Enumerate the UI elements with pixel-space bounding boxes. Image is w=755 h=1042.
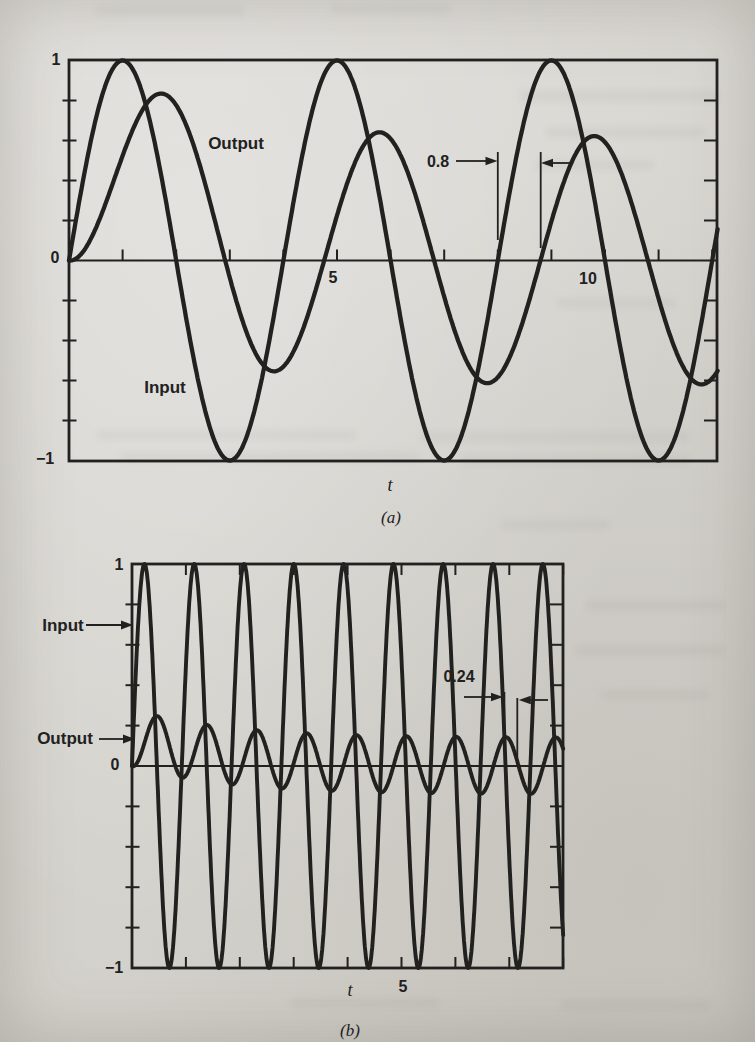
plot-a-generated bbox=[63, 60, 718, 461]
delay-value-b: 0.24 bbox=[443, 668, 474, 685]
y-axis-label-minus-one-a: −1 bbox=[36, 450, 54, 467]
x-tick-label-10-a: 10 bbox=[579, 270, 597, 287]
delay-annotation-a: 0.8 bbox=[427, 152, 573, 248]
x-axis-title-b: t bbox=[347, 980, 353, 1000]
panel-b: 0.24 1 0 −1 5 Input Output t (b) bbox=[37, 556, 563, 1040]
arrow-left-icon bbox=[519, 696, 531, 704]
output-curve-label-a: Output bbox=[208, 134, 264, 153]
y-axis-label-minus-one-b: −1 bbox=[105, 959, 123, 976]
output-curve bbox=[132, 716, 563, 794]
y-axis-label-one-a: 1 bbox=[52, 51, 61, 68]
scanned-page: 0.8 1 0 −1 5 10 Output Input t (a) bbox=[0, 0, 755, 1042]
panel-caption-a: (a) bbox=[381, 508, 401, 527]
input-curve-label-b: Input bbox=[42, 616, 84, 635]
panel-a: 0.8 1 0 −1 5 10 Output Input t (a) bbox=[36, 51, 718, 527]
y-axis-label-zero-b: 0 bbox=[111, 756, 120, 773]
y-axis-label-one-b: 1 bbox=[115, 556, 124, 573]
output-curve-label-b: Output bbox=[37, 729, 93, 748]
y-axis-label-zero-a: 0 bbox=[51, 249, 60, 266]
x-tick-label-5-b: 5 bbox=[399, 978, 408, 995]
plot-b-generated bbox=[126, 564, 564, 968]
panel-caption-b: (b) bbox=[340, 1021, 360, 1040]
waveform-figure: 0.8 1 0 −1 5 10 Output Input t (a) bbox=[0, 0, 755, 1042]
x-axis-title-a: t bbox=[387, 475, 393, 495]
x-tick-label-5-a: 5 bbox=[329, 269, 338, 286]
arrow-left-icon bbox=[541, 159, 553, 167]
input-curve-label-a: Input bbox=[144, 378, 186, 397]
arrow-right-icon bbox=[486, 157, 498, 165]
delay-value-a: 0.8 bbox=[427, 153, 449, 170]
